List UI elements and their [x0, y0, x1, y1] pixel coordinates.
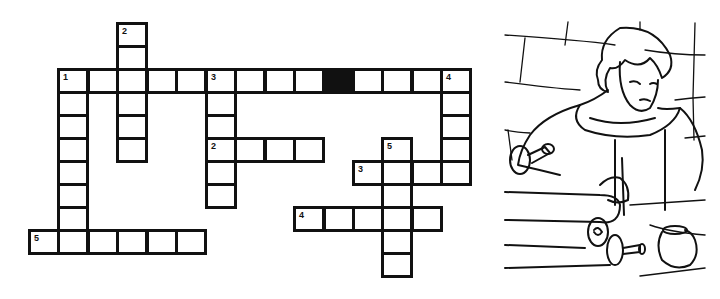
crossword-cell[interactable] [175, 68, 207, 94]
clue-number: 4 [299, 210, 304, 220]
clue-number: 5 [387, 141, 392, 151]
crossword-cell[interactable] [87, 229, 119, 255]
clue-number: 3 [358, 164, 363, 174]
crossword-cell[interactable]: 3 [352, 160, 384, 186]
crossword-cell[interactable] [411, 206, 443, 232]
clue-number: 3 [211, 72, 216, 82]
crossword-cell[interactable] [146, 229, 178, 255]
scroll-handle-icon [510, 144, 554, 174]
clue-number: 1 [63, 72, 68, 82]
crossword-cell[interactable] [234, 137, 266, 163]
clue-number: 4 [446, 72, 451, 82]
crossword-cell[interactable] [381, 68, 413, 94]
crossword-cell[interactable] [116, 137, 148, 163]
crossword-cell[interactable]: 5 [28, 229, 60, 255]
scribe-figure-icon [518, 28, 703, 210]
crossword-cell[interactable] [293, 137, 325, 163]
crossword-cell[interactable] [264, 137, 296, 163]
crossword-cell[interactable] [205, 183, 237, 209]
crossword-cell[interactable] [264, 68, 296, 94]
crossword-cell[interactable] [323, 206, 355, 232]
crossword-cell[interactable] [352, 206, 384, 232]
clue-number: 2 [211, 141, 216, 151]
crossword-cell[interactable] [411, 160, 443, 186]
scribe-illustration [490, 0, 720, 299]
crossword-cell[interactable] [146, 68, 178, 94]
crossword-cell[interactable] [57, 229, 89, 255]
clue-number: 5 [34, 233, 39, 243]
crossword-cell[interactable] [116, 229, 148, 255]
crossword-cell[interactable] [87, 68, 119, 94]
crossword-cell[interactable] [234, 68, 266, 94]
crossword-cell[interactable] [411, 68, 443, 94]
crossword-cell[interactable] [293, 68, 325, 94]
crossword-grid: 213425345 [0, 0, 490, 299]
crossword-cell[interactable] [352, 68, 384, 94]
crossword-cell[interactable] [440, 160, 472, 186]
clue-number: 2 [122, 26, 127, 36]
black-square [323, 68, 355, 94]
crossword-cell[interactable] [381, 252, 413, 278]
crossword-cell[interactable] [175, 229, 207, 255]
crossword-cell[interactable]: 4 [293, 206, 325, 232]
